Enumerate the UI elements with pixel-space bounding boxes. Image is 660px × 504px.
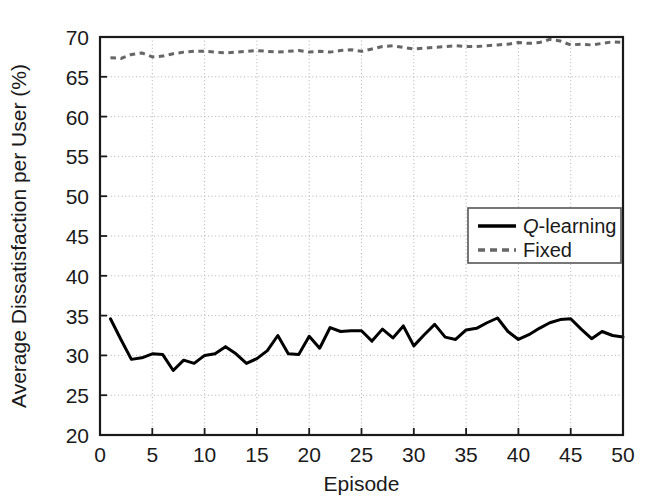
y-tick-label: 45 — [66, 225, 89, 248]
x-tick-label: 5 — [146, 443, 158, 466]
x-tick-label: 35 — [454, 443, 477, 466]
chart-figure: 05101520253035404550 2025303540455055606… — [0, 0, 660, 504]
y-tick-label: 40 — [66, 265, 89, 288]
x-tick-label: 0 — [94, 443, 106, 466]
x-axis-title: Episode — [324, 472, 400, 495]
y-tick-label: 60 — [66, 106, 89, 129]
y-tick-label: 70 — [66, 26, 89, 49]
y-tick-label: 50 — [66, 185, 89, 208]
x-tick-label: 40 — [507, 443, 530, 466]
x-tick-label: 25 — [350, 443, 373, 466]
legend-label-q-learning: Q-learning — [523, 215, 616, 237]
y-tick-label: 55 — [66, 145, 89, 168]
y-axis-title: Average Dissatisfaction per User (%) — [7, 64, 30, 408]
x-tick-label: 50 — [611, 443, 634, 466]
x-tick-label: 20 — [298, 443, 321, 466]
x-tick-label: 10 — [193, 443, 216, 466]
y-tick-label: 25 — [66, 384, 89, 407]
y-tick-label: 20 — [66, 424, 89, 447]
legend: Q-learning Fixed — [468, 208, 621, 263]
y-tick-label: 65 — [66, 66, 89, 89]
x-tick-label: 15 — [245, 443, 268, 466]
x-tick-label: 30 — [402, 443, 425, 466]
line-chart: 05101520253035404550 2025303540455055606… — [0, 0, 660, 504]
y-tick-label: 30 — [66, 344, 89, 367]
legend-label-fixed: Fixed — [523, 239, 572, 261]
x-tick-label: 45 — [559, 443, 582, 466]
y-tick-label: 35 — [66, 305, 89, 328]
